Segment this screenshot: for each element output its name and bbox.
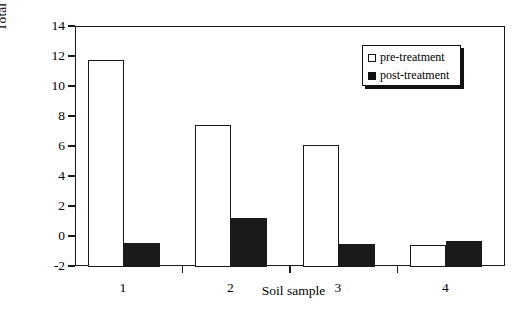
y-tick-label: 14 xyxy=(52,17,66,34)
open-square-icon xyxy=(368,54,376,62)
y-tick-mark xyxy=(68,145,75,147)
bar-post-treatment-sample-4 xyxy=(446,241,482,267)
chart-figure: Total swell percentage, % -202468101214 … xyxy=(0,0,531,312)
y-tick-mark xyxy=(68,55,75,57)
y-tick-mark xyxy=(68,25,75,27)
bar-pre-treatment-sample-1 xyxy=(88,60,124,267)
y-tick-mark xyxy=(68,235,75,237)
x-tick-mark xyxy=(397,266,399,273)
bar-pre-treatment-sample-4 xyxy=(410,245,446,268)
bar-pre-treatment-sample-2 xyxy=(195,125,231,268)
bar-post-treatment-sample-3 xyxy=(339,244,375,267)
bar-pre-treatment-sample-3 xyxy=(303,145,339,267)
bar-post-treatment-sample-1 xyxy=(124,243,160,267)
y-tick-mark xyxy=(68,265,75,267)
y-tick-mark xyxy=(68,175,75,177)
y-tick-label: 4 xyxy=(58,167,65,184)
x-axis-label-text: Soil sample xyxy=(262,283,325,298)
x-tick-mark xyxy=(289,266,291,273)
legend-item-pre-treatment: pre-treatment xyxy=(368,49,456,66)
filled-square-icon xyxy=(368,72,376,80)
bar-post-treatment-sample-2 xyxy=(231,218,267,267)
y-tick-label: 10 xyxy=(52,77,66,94)
y-tick-label: 6 xyxy=(58,137,65,154)
x-axis-label: Soil sample xyxy=(0,283,531,299)
y-tick-label: 8 xyxy=(58,107,65,124)
y-tick-label: 0 xyxy=(58,227,65,244)
y-tick-label: -2 xyxy=(54,257,65,274)
legend-label-post-treatment: post-treatment xyxy=(380,69,449,82)
y-axis-label: Total swell percentage, % xyxy=(0,0,10,60)
legend-label-pre-treatment: pre-treatment xyxy=(380,51,445,64)
y-tick-label: 2 xyxy=(58,197,65,214)
y-tick-mark xyxy=(68,85,75,87)
x-tick-mark xyxy=(182,266,184,273)
y-tick-mark xyxy=(68,205,75,207)
y-tick-mark xyxy=(68,115,75,117)
legend-item-post-treatment: post-treatment xyxy=(368,67,456,84)
chart-legend: pre-treatment post-treatment xyxy=(362,45,461,86)
y-tick-label: 12 xyxy=(52,47,66,64)
